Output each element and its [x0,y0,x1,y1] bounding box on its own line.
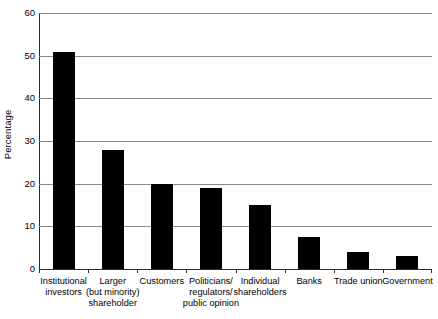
y-axis-tick-label: 30 [1,136,35,146]
gridline [39,98,432,99]
bar-chart: Percentage 0102030405060 Institutionalin… [0,0,438,319]
y-axis-tick-label: 0 [1,264,35,274]
x-axis-tick [236,269,237,273]
gridline [39,56,432,57]
x-axis-tick [334,269,335,273]
x-axis-category-label: Government [377,276,438,287]
x-axis-category-label-line: shareholder [82,298,143,309]
x-axis-ticks [39,269,432,274]
x-axis-tick [431,269,432,273]
gridline [39,13,432,14]
x-axis-tick [88,269,89,273]
x-axis-tick [186,269,187,273]
x-axis-category-label-line: shareholders [230,287,291,298]
bar [151,184,173,269]
y-axis-tick-label: 40 [1,94,35,104]
y-axis-tick-label: 50 [1,51,35,61]
x-axis-category-label-line: Government [377,276,438,287]
x-axis-category-labels: InstitutionalinvestorsLarger(but minorit… [39,276,432,319]
gridline [39,184,432,185]
y-axis-tick-label: 10 [1,222,35,232]
x-axis-category-label-line: (but minority) [82,287,143,298]
y-axis-tick-label: 60 [1,8,35,18]
x-axis-tick [383,269,384,273]
bar [347,252,369,269]
gridline [39,226,432,227]
x-axis-tick [285,269,286,273]
x-axis-category-label-line: public opinion [180,298,241,309]
bar [102,150,124,269]
bar [298,237,320,269]
x-axis-tick [137,269,138,273]
bar [396,256,418,269]
gridline [39,141,432,142]
y-axis-tick-labels: 0102030405060 [0,13,35,269]
bar [249,205,271,269]
bar [200,188,222,269]
plot-area [39,13,432,269]
bar [53,52,75,269]
y-axis-tick-label: 20 [1,179,35,189]
x-axis-tick [39,269,40,273]
